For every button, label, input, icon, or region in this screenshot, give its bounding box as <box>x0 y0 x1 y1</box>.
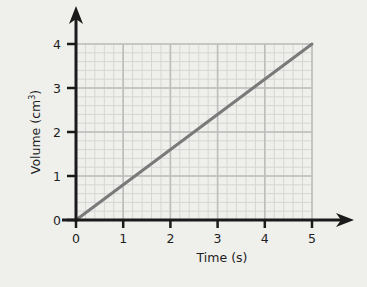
y-ticks: 01234 <box>53 37 76 228</box>
x-tick-label: 0 <box>72 231 80 246</box>
x-tick-label: 4 <box>261 231 269 246</box>
y-axis-label-base: Volume (cm <box>28 100 43 174</box>
y-tick-label: 1 <box>53 169 61 184</box>
line-chart: 012345 01234 Time (s) Volume (cm3) <box>0 0 367 287</box>
y-axis-label: Volume (cm3) <box>28 90 43 174</box>
y-tick-label: 4 <box>53 37 61 52</box>
y-tick-label: 2 <box>53 125 61 140</box>
x-tick-label: 3 <box>214 231 222 246</box>
x-tick-label: 5 <box>308 231 316 246</box>
x-tick-label: 1 <box>119 231 127 246</box>
x-tick-label: 2 <box>166 231 174 246</box>
y-tick-label: 3 <box>53 81 61 96</box>
y-axis-label-close: ) <box>28 90 43 95</box>
x-ticks: 012345 <box>72 220 316 246</box>
x-axis-label: Time (s) <box>196 250 248 265</box>
y-tick-label: 0 <box>53 213 61 228</box>
